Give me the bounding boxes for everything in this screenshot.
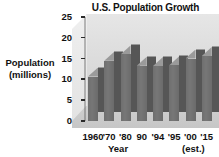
bar-top-edge [131,44,140,45]
bar [153,57,163,121]
x-axis-title: Year [108,143,128,154]
bar-top-face [137,57,147,66]
bar-top-face [121,45,131,54]
bar-top-face [202,47,212,56]
y-axis-tick-label: 25 [61,12,72,21]
bar [137,57,147,121]
bar-top-face [104,52,114,61]
bar-front-face [186,59,196,121]
bar [186,50,196,121]
bar-series [72,14,219,130]
y-axis-title-line-1: Population [0,57,60,69]
estimate-annotation: (est.) [182,143,205,154]
bar [169,56,179,121]
y-axis-tick-label: 10 [61,74,72,83]
chart-title-line-1: U.S. Population Growth [72,2,219,13]
bar-top-face [169,56,179,65]
bar [202,47,212,121]
bar-front-face [104,61,114,121]
y-axis-tick-label: 20 [61,33,72,42]
bar-top-face [153,57,163,66]
bar [104,52,114,121]
bar-front-face [153,66,163,121]
y-axis-title: Population (millions) [0,57,60,81]
bar-front-face [121,54,131,121]
bar-top-edge [212,46,219,47]
bar [121,45,131,121]
bar-front-face [88,77,98,122]
x-axis-labels: 1960'70'8090'94'95'00'15 [72,131,219,143]
bar-front-face [137,66,147,121]
x-axis-tick-label: '15 [193,131,219,142]
y-axis-title-line-2: (millions) [0,69,60,81]
bar [88,68,98,122]
bar-front-face [169,65,179,121]
bar-front-face [202,56,212,121]
bar-top-face [186,50,196,59]
y-axis-tick-label: 15 [61,54,72,63]
bar-side-face [212,47,219,112]
bar-top-face [88,68,98,77]
chart-screenshot: U.S. Population Growth of 15- to19-year-… [0,0,219,157]
plot-area: 0510152025 [72,14,219,130]
